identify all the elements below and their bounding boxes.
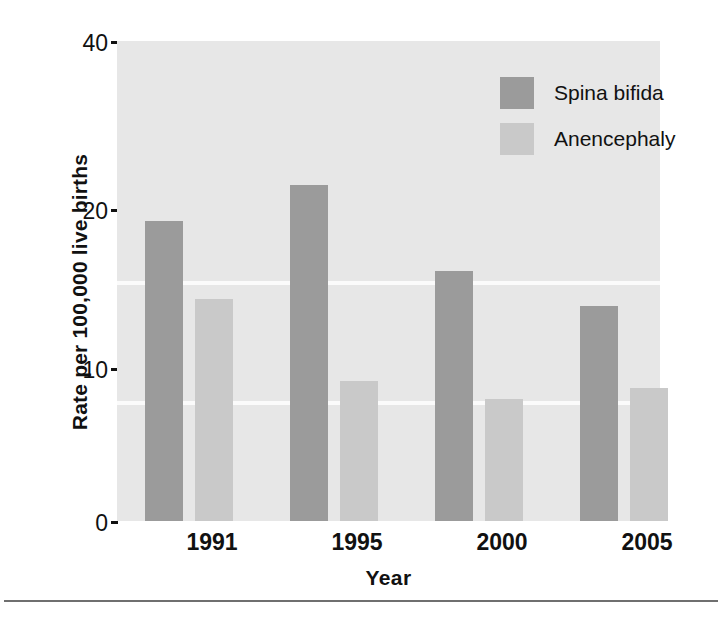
legend-label-anencephaly: Anencephaly (554, 127, 675, 151)
x-tick-label-2005: 2005 (577, 529, 717, 556)
bar-1995-anencephaly (340, 381, 378, 521)
bar-2005-spina-bifida (580, 306, 618, 521)
gridline-20 (117, 281, 660, 285)
bar-2000-spina-bifida (435, 271, 473, 521)
bar-chart-figure: Rate per 100,000 live births 40 20 10 0 … (0, 0, 722, 631)
legend-item-anencephaly: Anencephaly (500, 116, 675, 162)
x-tick-label-1991: 1991 (142, 529, 282, 556)
bar-1991-anencephaly (195, 299, 233, 521)
bottom-divider (4, 600, 718, 602)
bar-1991-spina-bifida (145, 221, 183, 521)
y-tick-label-40: 40 (36, 30, 108, 57)
y-axis-title: Rate per 100,000 live births (68, 62, 92, 522)
legend-swatch-anencephaly (500, 123, 534, 155)
legend-item-spina-bifida: Spina bifida (500, 70, 675, 116)
bar-1995-spina-bifida (290, 185, 328, 521)
y-tick-label-10: 10 (36, 357, 108, 384)
x-axis-title: Year (117, 566, 660, 590)
chart-legend: Spina bifida Anencephaly (500, 70, 675, 162)
y-tick-label-0: 0 (36, 510, 108, 537)
bar-2000-anencephaly (485, 399, 523, 521)
legend-swatch-spina-bifida (500, 77, 534, 109)
bar-2005-anencephaly (630, 388, 668, 521)
x-tick-label-1995: 1995 (287, 529, 427, 556)
x-tick-label-2000: 2000 (432, 529, 572, 556)
y-tick-mark-0 (111, 521, 118, 524)
legend-label-spina-bifida: Spina bifida (554, 81, 664, 105)
y-tick-label-20: 20 (36, 198, 108, 225)
